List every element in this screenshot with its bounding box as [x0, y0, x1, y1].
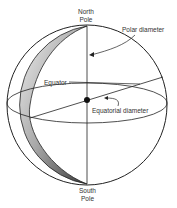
south-pole-label: South Pole: [79, 187, 96, 202]
equatorial-diameter-label: Equatorial diameter: [92, 107, 148, 115]
polar-diameter-pointer: [91, 35, 135, 55]
equator-label: Equator: [44, 79, 67, 87]
north-pole-label: North Pole: [78, 8, 94, 23]
polar-diameter-label: Polar diameter: [122, 26, 164, 34]
center-point: [84, 97, 90, 103]
